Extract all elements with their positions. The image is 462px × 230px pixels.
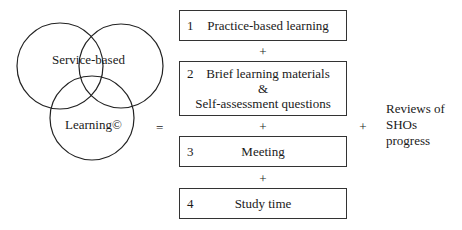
venn-diagram (0, 0, 180, 170)
equals-sign: = (156, 120, 163, 136)
reviews-line1: Reviews of (386, 101, 445, 117)
plus-sign: + (253, 171, 273, 187)
reviews-line2: SHOs (386, 117, 445, 133)
component-text-line1: Brief learning materials (180, 66, 346, 82)
plus-sign-reviews: + (353, 119, 373, 135)
venn-label-service-based: Service-based (52, 52, 125, 68)
component-box-3: 3 Meeting (179, 136, 347, 167)
reviews-text: Reviews of SHOs progress (386, 101, 445, 149)
component-box-2: 2 Brief learning materials & Self-assess… (179, 61, 347, 116)
component-box-1: 1 Practice-based learning (179, 10, 347, 41)
reviews-line3: progress (386, 133, 445, 149)
venn-label-learning: Learning© (65, 117, 122, 133)
component-text: Meeting (180, 144, 346, 160)
component-text: Study time (180, 196, 346, 212)
component-text-line3: Self-assessment questions (180, 96, 346, 112)
component-box-4: 4 Study time (179, 188, 347, 219)
plus-sign: + (253, 119, 273, 135)
component-text-line2: & (180, 81, 346, 97)
plus-sign: + (253, 44, 273, 60)
component-text: Practice-based learning (180, 18, 346, 34)
